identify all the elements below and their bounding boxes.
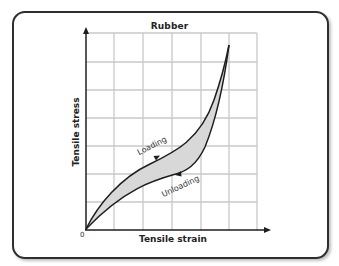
stress-strain-plot bbox=[0, 0, 339, 266]
y-axis-label: Tensile stress bbox=[71, 86, 81, 178]
figure-title: Rubber bbox=[0, 21, 339, 31]
origin-label: 0 bbox=[80, 231, 84, 239]
x-axis-label: Tensile strain bbox=[86, 234, 260, 244]
x-axis-arrow-icon bbox=[264, 227, 271, 233]
